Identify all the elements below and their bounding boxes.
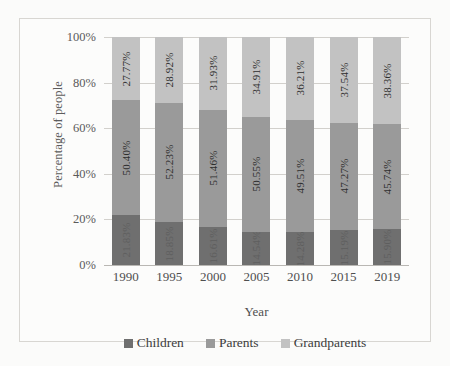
- bar-segment-grandparents[interactable]: 36.21%: [286, 37, 314, 120]
- legend-label: Grandparents: [294, 335, 367, 351]
- x-tick-label: 2010: [280, 269, 320, 289]
- bar-segment-children[interactable]: 15.19%: [330, 230, 358, 265]
- bar-value-label: 34.91%: [250, 59, 262, 94]
- bar-value-label: 14.28%: [294, 232, 306, 265]
- bar-value-label: 18.85%: [163, 226, 175, 261]
- legend-label: Children: [137, 335, 184, 351]
- x-tick-label: 2000: [193, 269, 233, 289]
- bar-segment-grandparents[interactable]: 38.36%: [373, 37, 401, 124]
- bar-segment-children[interactable]: 21.83%: [112, 215, 140, 265]
- y-tick-label: 80%: [46, 75, 96, 90]
- bar-segment-parents[interactable]: 52.23%: [155, 103, 183, 222]
- bar-value-label: 14.54%: [250, 232, 262, 265]
- bar-segment-parents[interactable]: 49.51%: [286, 120, 314, 233]
- legend-swatch-icon: [124, 339, 133, 348]
- bar-value-label: 28.92%: [163, 52, 175, 87]
- bar-segment-grandparents[interactable]: 37.54%: [330, 37, 358, 123]
- x-axis-title: Year: [104, 304, 409, 320]
- bar-segment-parents[interactable]: 47.27%: [330, 123, 358, 231]
- x-tick-label: 2005: [236, 269, 276, 289]
- bar-value-label: 16.61%: [207, 229, 219, 264]
- x-tick-label: 2015: [324, 269, 364, 289]
- bar-column[interactable]: 38.36%45.74%15.90%: [373, 37, 401, 265]
- y-tick-label: 100%: [46, 30, 96, 45]
- y-tick-label: 60%: [46, 121, 96, 136]
- bar-value-label: 36.21%: [294, 61, 306, 96]
- bar-segment-grandparents[interactable]: 34.91%: [242, 37, 270, 117]
- legend-swatch-icon: [281, 339, 290, 348]
- legend-item-grandparents[interactable]: Grandparents: [281, 335, 367, 351]
- bar-segment-grandparents[interactable]: 31.93%: [199, 37, 227, 110]
- bar-value-label: 50.55%: [250, 157, 262, 192]
- figure: Percentage of people 0%20%40%60%80%100% …: [0, 0, 450, 366]
- bar-segment-children[interactable]: 15.90%: [373, 229, 401, 265]
- bar-value-label: 27.77%: [120, 51, 132, 86]
- bar-value-label: 21.83%: [120, 223, 132, 258]
- bar-segment-grandparents[interactable]: 27.77%: [112, 37, 140, 100]
- bar-value-label: 45.74%: [381, 159, 393, 194]
- x-tick-label: 2019: [367, 269, 407, 289]
- bar-value-label: 49.51%: [294, 158, 306, 193]
- bar-value-label: 38.36%: [381, 63, 393, 98]
- bar-column[interactable]: 31.93%51.46%16.61%: [199, 37, 227, 265]
- y-tick-label: 20%: [46, 212, 96, 227]
- bar-group: 27.77%50.40%21.83%28.92%52.23%18.85%31.9…: [104, 37, 409, 265]
- bar-value-label: 52.23%: [163, 145, 175, 180]
- legend-item-parents[interactable]: Parents: [206, 335, 259, 351]
- x-axis-tick-labels: 1990199520002005201020152019: [104, 269, 409, 289]
- bar-value-label: 47.27%: [338, 159, 350, 194]
- legend-label: Parents: [219, 335, 259, 351]
- legend: ChildrenParentsGrandparents: [39, 335, 450, 351]
- legend-item-children[interactable]: Children: [124, 335, 184, 351]
- bar-value-label: 15.90%: [381, 229, 393, 264]
- y-tick-label: 40%: [46, 166, 96, 181]
- bar-column[interactable]: 37.54%47.27%15.19%: [330, 37, 358, 265]
- bar-value-label: 15.19%: [338, 230, 350, 265]
- gridline: [104, 265, 409, 266]
- bar-segment-children[interactable]: 14.28%: [286, 232, 314, 265]
- bar-column[interactable]: 28.92%52.23%18.85%: [155, 37, 183, 265]
- chart-frame: Percentage of people 0%20%40%60%80%100% …: [19, 18, 431, 342]
- bar-value-label: 31.93%: [207, 56, 219, 91]
- bar-segment-parents[interactable]: 51.46%: [199, 110, 227, 227]
- x-tick-label: 1990: [106, 269, 146, 289]
- x-tick-label: 1995: [149, 269, 189, 289]
- bar-value-label: 50.40%: [120, 140, 132, 175]
- bar-segment-grandparents[interactable]: 28.92%: [155, 37, 183, 103]
- y-axis-tick-labels: 0%20%40%60%80%100%: [46, 37, 96, 265]
- plot-area: 27.77%50.40%21.83%28.92%52.23%18.85%31.9…: [104, 37, 409, 265]
- bar-segment-children[interactable]: 18.85%: [155, 222, 183, 265]
- bar-value-label: 37.54%: [338, 62, 350, 97]
- legend-swatch-icon: [206, 339, 215, 348]
- y-tick-label: 0%: [46, 258, 96, 273]
- bar-column[interactable]: 34.91%50.55%14.54%: [242, 37, 270, 265]
- bar-segment-parents[interactable]: 50.40%: [112, 100, 140, 215]
- bar-column[interactable]: 27.77%50.40%21.83%: [112, 37, 140, 265]
- bar-segment-parents[interactable]: 50.55%: [242, 117, 270, 232]
- bar-value-label: 51.46%: [207, 151, 219, 186]
- bar-column[interactable]: 36.21%49.51%14.28%: [286, 37, 314, 265]
- bar-segment-parents[interactable]: 45.74%: [373, 124, 401, 228]
- bar-segment-children[interactable]: 14.54%: [242, 232, 270, 265]
- bar-segment-children[interactable]: 16.61%: [199, 227, 227, 265]
